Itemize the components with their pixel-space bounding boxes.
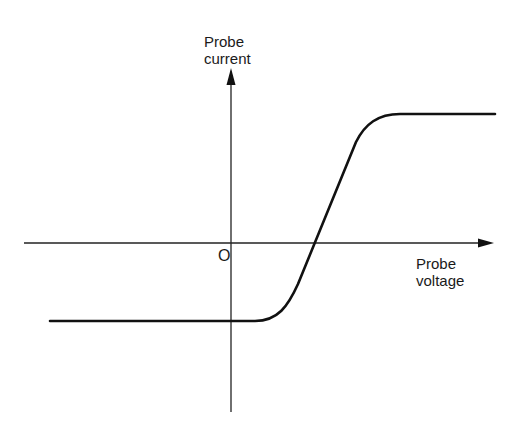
origin-label: O	[218, 247, 230, 264]
iv-curve	[50, 114, 495, 321]
y-axis-label-line1: Probe	[204, 33, 251, 50]
x-axis-label-line1: Probe	[416, 255, 464, 272]
x-axis-label: Probe voltage	[416, 255, 464, 289]
y-axis-arrow-icon	[227, 68, 236, 85]
y-axis-label: Probe current	[204, 33, 251, 67]
x-axis-arrow-icon	[478, 239, 494, 248]
x-axis-label-line2: voltage	[416, 272, 464, 289]
y-axis-label-line2: current	[204, 50, 251, 67]
probe-characteristic-diagram	[0, 0, 519, 428]
